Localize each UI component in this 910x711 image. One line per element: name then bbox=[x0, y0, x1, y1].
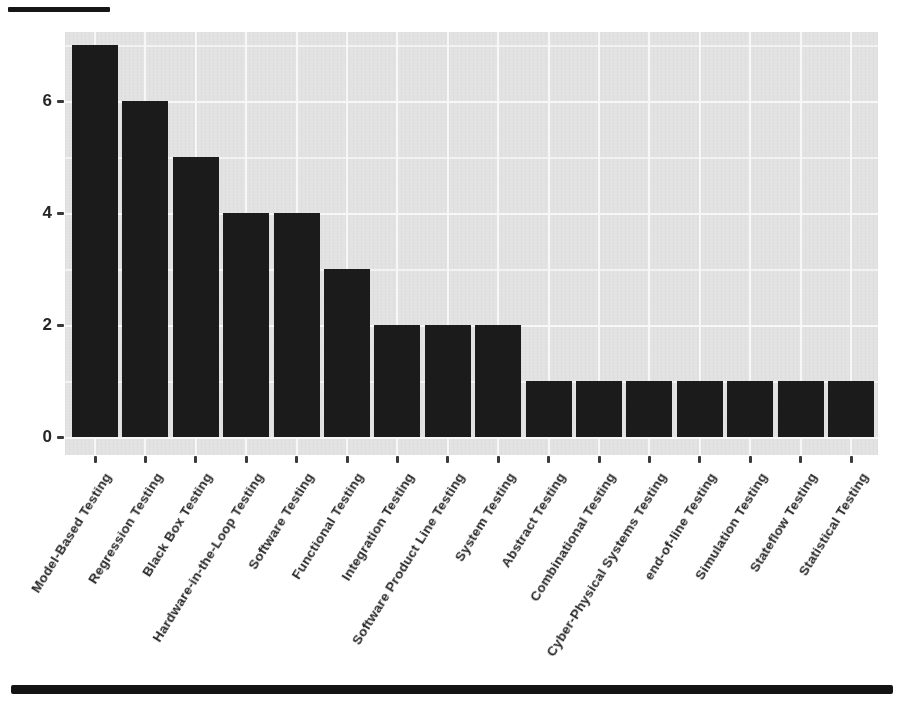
bar-software-testing bbox=[274, 213, 320, 437]
y-tick-label: 2 bbox=[14, 315, 52, 335]
bar-chart-figure: 0246 Model-Based TestingRegression Testi… bbox=[0, 0, 910, 680]
x-tick-mark bbox=[598, 456, 601, 463]
bottom-rule-line bbox=[11, 685, 893, 694]
bar-hardware-in-the-loop-testing bbox=[223, 213, 269, 437]
bar-simulation-testing bbox=[727, 381, 773, 437]
x-tick-mark bbox=[446, 456, 449, 463]
bar-model-based-testing bbox=[72, 45, 118, 437]
bar-cyber-physical-systems-testing bbox=[626, 381, 672, 437]
scanned-figure-page: 0246 Model-Based TestingRegression Testi… bbox=[0, 0, 910, 711]
x-tick-mark bbox=[396, 456, 399, 463]
x-tick-mark bbox=[245, 456, 248, 463]
bar-abstract-testing bbox=[526, 381, 572, 437]
x-tick-mark bbox=[346, 456, 349, 463]
bar-software-product-line-testing bbox=[425, 325, 471, 437]
x-tick-mark bbox=[749, 456, 752, 463]
bar-end-of-line-testing bbox=[677, 381, 723, 437]
x-tick-mark bbox=[194, 456, 197, 463]
y-tick-mark bbox=[57, 436, 64, 439]
bar-system-testing bbox=[475, 325, 521, 437]
x-tick-mark bbox=[799, 456, 802, 463]
x-tick-label-combinational-testing: Combinational Testing bbox=[527, 470, 619, 604]
plot-panel bbox=[65, 32, 878, 455]
bar-black-box-testing bbox=[173, 157, 219, 437]
y-tick-label: 0 bbox=[14, 427, 52, 447]
bar-integration-testing bbox=[374, 325, 420, 437]
bar-combinational-testing bbox=[576, 381, 622, 437]
gridline-horizontal bbox=[65, 45, 878, 47]
x-tick-mark bbox=[850, 456, 853, 463]
y-tick-mark bbox=[57, 212, 64, 215]
bar-functional-testing bbox=[324, 269, 370, 437]
x-tick-mark bbox=[295, 456, 298, 463]
bar-statistical-testing bbox=[828, 381, 874, 437]
x-tick-mark bbox=[648, 456, 651, 463]
x-tick-label-software-product-line-testing: Software Product Line Testing bbox=[349, 470, 468, 647]
x-tick-mark bbox=[144, 456, 147, 463]
bar-regression-testing bbox=[122, 101, 168, 437]
gridline-horizontal bbox=[65, 101, 878, 103]
gridline-horizontal bbox=[65, 437, 878, 439]
x-tick-mark bbox=[94, 456, 97, 463]
y-tick-label: 4 bbox=[14, 203, 52, 223]
x-tick-mark bbox=[547, 456, 550, 463]
y-tick-mark bbox=[57, 324, 64, 327]
y-tick-mark bbox=[57, 100, 64, 103]
x-tick-mark bbox=[698, 456, 701, 463]
x-tick-mark bbox=[497, 456, 500, 463]
y-tick-label: 6 bbox=[14, 91, 52, 111]
bar-stateflow-testing bbox=[778, 381, 824, 437]
